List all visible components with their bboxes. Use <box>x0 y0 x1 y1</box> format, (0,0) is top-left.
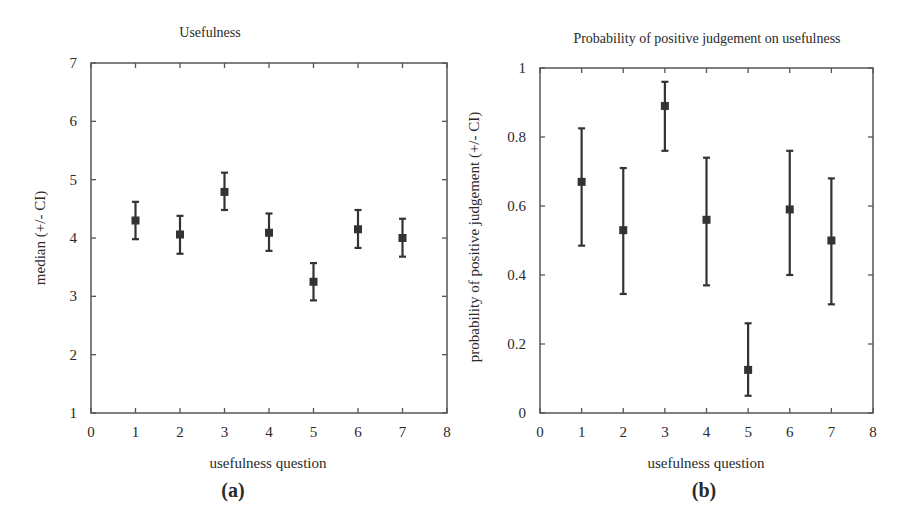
y-tick-label: 0.2 <box>507 336 526 352</box>
error-bar-point <box>786 151 794 275</box>
y-axis-label: probability of positive judgement (+/- C… <box>466 112 483 363</box>
error-bar-point <box>132 202 140 239</box>
x-tick-label: 1 <box>578 424 586 440</box>
error-bar-point <box>619 168 627 294</box>
square-marker <box>176 231 184 239</box>
error-bar-point <box>578 128 586 245</box>
figure: Usefulness median (+/- CI) usefulness qu… <box>0 0 906 531</box>
square-marker <box>578 178 586 186</box>
x-axis-label: usefulness question <box>647 455 765 471</box>
x-tick-label: 5 <box>310 424 318 440</box>
chart-positive-probability: Probability of positive judgement on use… <box>466 31 877 502</box>
x-tick-label: 8 <box>443 424 451 440</box>
data-series <box>132 173 407 301</box>
data-series <box>578 82 836 396</box>
error-bar-point <box>744 323 752 395</box>
square-marker <box>786 205 794 213</box>
square-marker <box>661 102 669 110</box>
x-tick-label: 5 <box>744 424 752 440</box>
error-bar-point <box>310 263 318 300</box>
y-tick-label: 0.4 <box>507 267 526 283</box>
x-tick-label: 0 <box>87 424 95 440</box>
chart-title: Probability of positive judgement on use… <box>573 31 840 46</box>
square-marker <box>354 225 362 233</box>
y-tick-label: 6 <box>70 113 78 129</box>
y-tick-label: 7 <box>70 55 78 71</box>
axis-ticks: 01234567800.20.40.60.81 <box>507 60 877 440</box>
y-tick-label: 1 <box>70 405 78 421</box>
y-tick-label: 4 <box>70 230 78 246</box>
error-bar-point <box>703 158 711 286</box>
square-marker <box>619 226 627 234</box>
error-bar-point <box>265 214 273 251</box>
panel-label-b: (b) <box>692 479 716 502</box>
square-marker <box>744 366 752 374</box>
square-marker <box>310 278 318 286</box>
y-tick-label: 0.8 <box>507 129 526 145</box>
square-marker <box>132 217 140 225</box>
y-tick-label: 5 <box>70 172 78 188</box>
x-tick-label: 2 <box>176 424 184 440</box>
y-tick-label: 3 <box>70 288 78 304</box>
panel-label-a: (a) <box>221 479 244 502</box>
axis-ticks: 0123456781234567 <box>70 55 451 440</box>
x-tick-label: 4 <box>703 424 711 440</box>
chart-title: Usefulness <box>179 25 240 40</box>
y-tick-label: 0 <box>519 405 527 421</box>
x-axis-label: usefulness question <box>209 455 327 471</box>
x-tick-label: 3 <box>221 424 229 440</box>
y-tick-label: 1 <box>519 60 527 76</box>
error-bar-point <box>354 210 362 248</box>
y-tick-label: 2 <box>70 347 78 363</box>
chart-usefulness-median: Usefulness median (+/- CI) usefulness qu… <box>32 25 451 502</box>
square-marker <box>399 234 407 242</box>
square-marker <box>827 237 835 245</box>
square-marker <box>703 216 711 224</box>
x-tick-label: 7 <box>399 424 407 440</box>
error-bar-point <box>176 216 184 254</box>
x-tick-label: 6 <box>786 424 794 440</box>
x-tick-label: 6 <box>354 424 362 440</box>
x-tick-label: 2 <box>620 424 628 440</box>
error-bar-point <box>399 219 407 257</box>
error-bar-point <box>827 178 835 304</box>
x-tick-label: 8 <box>869 424 877 440</box>
x-tick-label: 3 <box>661 424 669 440</box>
y-tick-label: 0.6 <box>507 198 526 214</box>
error-bar-point <box>661 82 669 151</box>
x-tick-label: 7 <box>828 424 836 440</box>
x-tick-label: 1 <box>132 424 140 440</box>
square-marker <box>265 229 273 237</box>
square-marker <box>221 188 229 196</box>
figure-canvas: Usefulness median (+/- CI) usefulness qu… <box>0 0 906 531</box>
error-bar-point <box>221 173 229 210</box>
x-tick-label: 4 <box>265 424 273 440</box>
y-axis-label: median (+/- CI) <box>32 191 49 285</box>
x-tick-label: 0 <box>536 424 544 440</box>
